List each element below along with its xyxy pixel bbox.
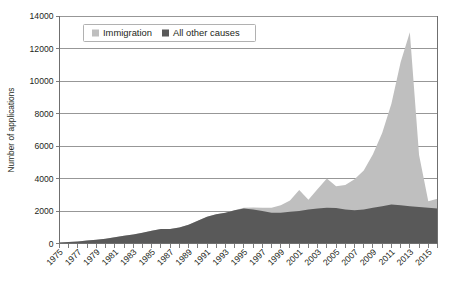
legend-label-immigration: Immigration [103, 27, 152, 38]
y-tick-label-8000: 8000 [34, 109, 53, 119]
legend-label-all-other-causes: All other causes [173, 27, 240, 38]
y-tick-label-4000: 4000 [34, 174, 53, 184]
y-tick-label-2000: 2000 [34, 206, 53, 216]
legend-swatch-immigration [92, 30, 99, 37]
y-tick-label-0: 0 [49, 239, 54, 249]
y-tick-label-14000: 14000 [30, 11, 54, 21]
area-chart: 02000400060008000100001200014000 1975197… [0, 0, 458, 291]
y-tick-label-6000: 6000 [34, 141, 53, 151]
y-tick-label-12000: 12000 [30, 44, 54, 54]
chart-container: 02000400060008000100001200014000 1975197… [0, 0, 458, 291]
legend: Immigration All other causes [84, 25, 256, 42]
legend-swatch-all-other-causes [162, 30, 169, 37]
y-tick-label-10000: 10000 [30, 76, 54, 86]
y-axis-title: Number of applications [6, 88, 16, 173]
